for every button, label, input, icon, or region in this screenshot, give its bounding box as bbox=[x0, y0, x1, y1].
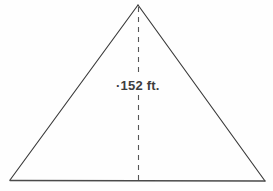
triangle-outline bbox=[10, 5, 265, 181]
altitude-measurement-label: ·152 ft. bbox=[114, 78, 163, 93]
diagram-canvas: ·152 ft. bbox=[0, 0, 273, 191]
triangle-base bbox=[10, 181, 265, 182]
triangle-figure bbox=[0, 0, 273, 191]
triangle-right-side bbox=[138, 5, 265, 181]
